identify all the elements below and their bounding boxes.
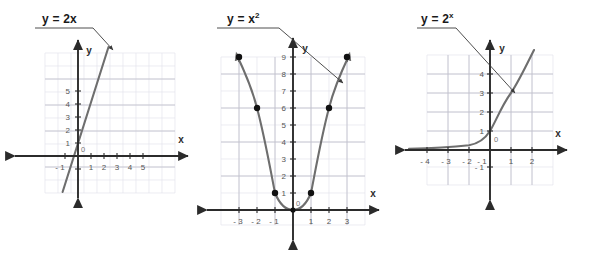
ytick-label: 2 — [282, 172, 287, 181]
xtick-label: 1 — [89, 163, 94, 172]
equation-text: y = 2 — [42, 12, 70, 26]
xtick-label: - 1 — [55, 163, 65, 172]
equation-text: y = x — [227, 12, 255, 26]
xtick-label: 3 — [345, 217, 350, 226]
y-axis-letter: y — [86, 45, 92, 56]
xtick-label: 3 — [115, 163, 120, 172]
ytick-label: 7 — [282, 87, 287, 96]
ytick-label: 4 — [480, 70, 485, 79]
ytick-label: 2 — [480, 108, 485, 117]
data-point — [236, 54, 242, 60]
xtick-label: 1 — [309, 217, 314, 226]
equation-exponent: 2 — [255, 11, 260, 20]
data-point — [290, 207, 295, 212]
x-axis-letter: x — [370, 188, 376, 199]
three-function-graphs-figure: - 1 1 2 3 4 5 1 2 3 4 5 0 x y — [0, 0, 596, 264]
xtick-label: - 3 — [233, 217, 243, 226]
x-axis-letter: x — [178, 134, 184, 145]
grid-minor-linear — [45, 53, 175, 193]
xtick-label: - 2 — [462, 157, 472, 166]
quadratic-graph-svg: - 3 - 2 - 1 1 2 3 1 2 3 4 5 6 7 8 9 0 x … — [195, 0, 395, 264]
xtick-label: - 2 — [251, 217, 261, 226]
leader-line-linear — [35, 28, 113, 50]
ytick-label: 5 — [66, 87, 71, 96]
xtick-label: 2 — [102, 163, 107, 172]
data-point — [254, 105, 260, 111]
ytick-label: 5 — [282, 121, 287, 130]
leader-line-exponential — [417, 28, 515, 93]
data-point — [272, 190, 278, 196]
linear-graph-svg: - 1 1 2 3 4 5 1 2 3 4 5 0 x y — [0, 0, 200, 264]
xtick-label: 4 — [128, 163, 133, 172]
ytick-label: 1 — [282, 189, 287, 198]
ytick-label: 9 — [282, 53, 287, 62]
ytick-label: 6 — [282, 104, 287, 113]
equation-label-quadratic: y = x2 — [227, 12, 260, 26]
ticks-linear — [65, 91, 143, 169]
axes-exponential — [405, 40, 567, 200]
origin-label: 0 — [81, 145, 85, 154]
ytick-label: 3 — [66, 113, 71, 122]
xtick-label: 2 — [530, 157, 535, 166]
origin-label: 0 — [494, 135, 498, 144]
xtick-label: - 1 — [269, 217, 279, 226]
x-axis-letter: x — [555, 128, 561, 139]
xtick-label: - 4 — [420, 157, 430, 166]
equation-exponent: x — [449, 11, 454, 20]
xtick-label: 1 — [509, 157, 514, 166]
equation-label-linear: y = 2x — [42, 12, 77, 26]
xtick-label: 2 — [327, 217, 332, 226]
graph-panel-exponential: - 4 - 3 - 2 - 1 1 2 - 1 1 2 3 4 0 x y — [395, 0, 596, 264]
data-point — [308, 190, 314, 196]
exponential-graph-svg: - 4 - 3 - 2 - 1 1 2 - 1 1 2 3 4 0 x y — [395, 0, 596, 264]
curve-exponential — [409, 50, 534, 149]
ytick-label: 2 — [66, 126, 71, 135]
ytick-label: 4 — [66, 100, 71, 109]
ytick-label: 8 — [282, 70, 287, 79]
ytick-label: 1 — [66, 139, 71, 148]
data-point — [326, 105, 332, 111]
equation-text: y = 2 — [421, 12, 449, 26]
data-point — [344, 54, 350, 60]
graph-panel-quadratic: - 3 - 2 - 1 1 2 3 1 2 3 4 5 6 7 8 9 0 x … — [195, 0, 395, 264]
ytick-label: 3 — [480, 89, 485, 98]
xtick-label: 5 — [141, 163, 146, 172]
ticks-exponential — [427, 74, 532, 167]
y-axis-letter: y — [499, 43, 505, 54]
origin-label: 0 — [296, 199, 300, 208]
xtick-label: - 3 — [441, 157, 451, 166]
ytick-label: - 1 — [475, 163, 485, 172]
ytick-label: 3 — [282, 155, 287, 164]
equation-label-exponential: y = 2x — [421, 12, 454, 26]
graph-panel-linear: - 1 1 2 3 4 5 1 2 3 4 5 0 x y — [0, 0, 200, 264]
ytick-label: 4 — [282, 138, 287, 147]
ytick-label: 1 — [480, 127, 485, 136]
